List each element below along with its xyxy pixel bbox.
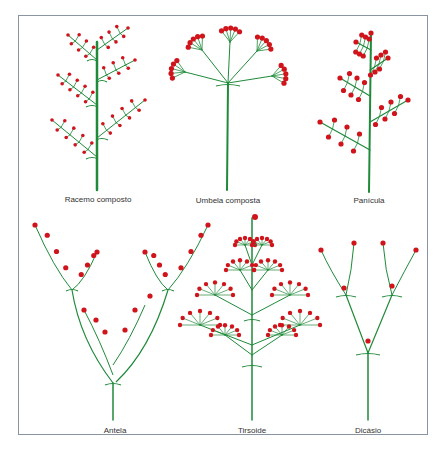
stem [215,295,252,315]
flower [362,80,367,85]
flower [282,67,287,72]
flower [200,33,205,38]
flower [255,237,259,241]
flower [122,327,127,332]
stem [227,83,228,190]
flower [204,282,208,286]
flower [142,249,147,254]
stem [392,250,416,295]
flower [273,259,277,263]
flower [93,317,98,322]
flower [81,307,86,312]
flower [85,262,90,267]
flower [265,237,269,241]
flower [292,328,296,332]
flower [351,240,356,245]
stem [116,290,168,382]
flower [356,97,361,102]
flower [32,222,37,227]
label-umbela-composta: Umbela composta [168,196,288,205]
flower [273,324,277,328]
flower [178,265,183,270]
panicula-illustration [317,30,410,192]
flower [63,265,68,270]
flower [209,333,213,337]
stem [87,60,97,62]
flower [368,30,373,35]
flower [215,316,219,320]
flower [163,272,168,277]
flower [68,72,72,76]
flower [298,309,302,313]
dicasio-illustration [318,240,418,420]
flower [188,249,193,254]
flower [188,311,192,315]
flower [77,48,81,52]
flower [357,131,362,136]
flower [84,100,88,104]
flower [157,262,162,267]
flower [288,311,292,315]
flower [385,55,390,60]
flower [308,311,312,315]
flower [383,49,388,54]
flower [147,293,152,298]
flower [121,56,125,60]
label-racemo-composto: Racemo composto [38,195,158,204]
flower [231,293,235,297]
flower [128,116,132,120]
flower [79,272,84,277]
flower [75,78,79,82]
flower [82,150,86,154]
label-dicasio: Dicásio [308,426,428,435]
stem [86,106,98,108]
stem [252,335,282,355]
stem [225,335,252,355]
flower [268,328,272,332]
flower [235,328,239,332]
flower [92,45,96,49]
flower [168,71,173,76]
stem [228,42,230,83]
flower [115,25,119,29]
flower [226,263,230,267]
stem [35,225,72,290]
flower [180,316,184,320]
flower [83,84,87,88]
flower [107,30,111,34]
label-antela: Antela [55,426,175,435]
flower [151,253,156,258]
flower [68,88,72,92]
flower [392,111,397,116]
stem [369,33,371,192]
flower [283,71,288,76]
flower [378,52,383,57]
flower [117,72,121,76]
flower [368,72,373,77]
flower [306,293,310,297]
flower [243,236,247,240]
flower [132,307,137,312]
flower [259,259,263,263]
flower [56,73,60,77]
flower [382,116,387,121]
flower [205,222,210,227]
flower [270,243,274,247]
flower [208,311,212,315]
umbela-composta-illustration [168,25,288,190]
flower [245,259,249,263]
flower [341,285,346,290]
flower [64,136,68,140]
flower [91,90,95,94]
flower [413,247,418,252]
flower [70,42,74,46]
flower [398,94,403,99]
flower [268,47,273,52]
flower [374,55,379,60]
flower [280,316,284,320]
flower [237,29,242,34]
flower [133,58,137,62]
flower [211,328,215,332]
flower [186,45,191,50]
stem [252,295,290,315]
